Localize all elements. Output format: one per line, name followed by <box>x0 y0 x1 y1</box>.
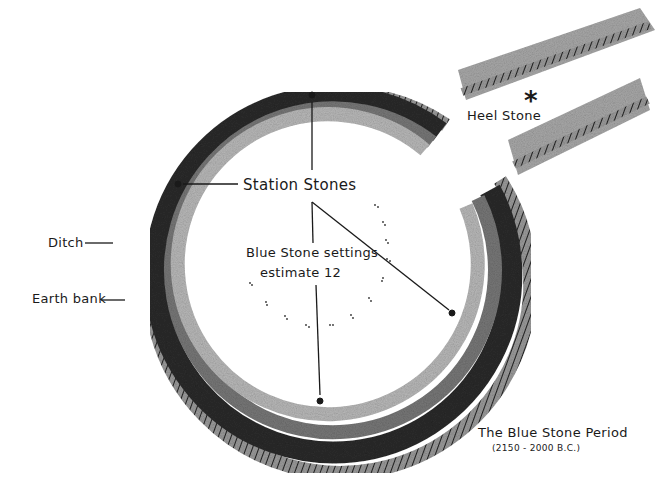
avenue <box>458 8 655 175</box>
diagram-title: The Blue Stone Period <box>478 425 628 440</box>
station-stone-south <box>317 398 323 404</box>
pointer-center <box>312 202 313 243</box>
pointer-south <box>316 285 320 395</box>
diagram-date-range: (2150 - 2000 B.C.) <box>492 443 580 453</box>
stonehenge-plan-diagram <box>0 0 669 479</box>
station-stone-north <box>309 92 315 98</box>
heel-stone-label: Heel Stone <box>467 108 541 123</box>
station-stone-west <box>175 181 181 187</box>
ditch-label: Ditch <box>48 235 84 250</box>
blue-stone-settings-label: Blue Stone settings <box>246 245 378 260</box>
blue-stone-estimate-label: estimate 12 <box>260 265 341 280</box>
station-stones-label: Station Stones <box>243 176 356 194</box>
earth-bank-label: Earth bank <box>32 291 106 306</box>
earthwork-ring <box>150 93 530 473</box>
station-stone-southeast <box>449 310 455 316</box>
